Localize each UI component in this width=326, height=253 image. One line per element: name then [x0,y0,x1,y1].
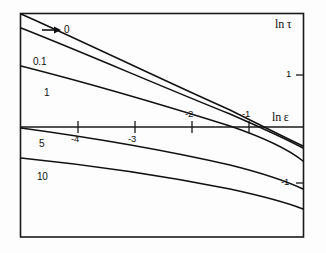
x-tick-label-minus3: -3 [128,133,136,144]
x-tick-label-minus4: -4 [71,133,79,144]
curve-label-0: 0 [64,24,69,35]
y-axis-title: ln τ [275,17,292,32]
x-axis-title: ln ε [272,110,289,125]
curve-label-0.1: 0.1 [33,56,46,67]
y-tick-label-plus1: 1 [286,68,291,79]
curve-label-1: 1 [44,87,49,98]
x-tick-label-minus1: -1 [242,108,250,119]
x-tick-label-minus2: -2 [185,108,193,119]
y-tick-label-minus1: -1 [281,176,289,187]
figure-panel: 0 0.1 1 5 10 -4 -3 -2 -1 1 -1 ln τ ln ε [0,0,326,253]
curve-label-5: 5 [39,138,44,149]
plot-svg [0,0,326,253]
curve-label-10: 10 [37,171,48,182]
